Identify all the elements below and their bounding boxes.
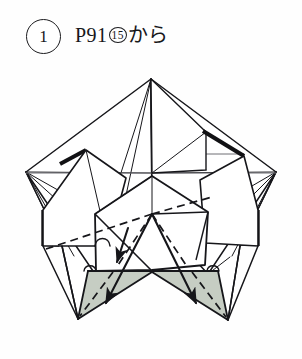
step-header: 1 P9115から — [0, 14, 302, 58]
step-number-badge: 1 — [26, 19, 61, 54]
origami-figure — [0, 60, 302, 359]
caption-suffix-label: から — [128, 24, 169, 46]
caption-reference-badge: 15 — [109, 27, 127, 43]
caption-prefix-label: P91 — [75, 24, 108, 46]
step-caption: P9115から — [75, 25, 169, 47]
step-number-label: 1 — [39, 28, 48, 45]
origami-instruction-page: 1 P9115から — [0, 0, 302, 359]
origami-figure-svg — [0, 60, 302, 359]
